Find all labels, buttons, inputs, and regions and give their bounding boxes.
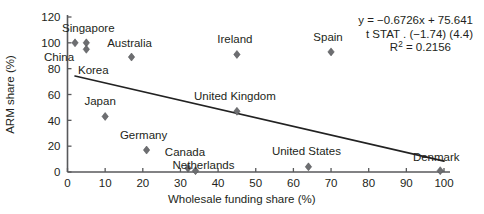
x-tick-label: 30 — [174, 177, 187, 189]
data-point-label: Australia — [107, 37, 152, 49]
data-point-label: Denmark — [413, 151, 460, 163]
regression-annotation: y = −0.6726x + 75.641t STAT . (−1.74) (4… — [358, 14, 473, 53]
x-tick-label: 90 — [400, 177, 413, 189]
r-squared: R2 = 0.2156 — [390, 40, 451, 54]
data-points — [72, 39, 444, 175]
x-tick-label: 80 — [362, 177, 375, 189]
data-point-label: Germany — [120, 129, 168, 141]
x-axis-title: Wholesale funding share (%) — [168, 193, 316, 205]
plot-area: 0102030405060708090100 020406080100120 C… — [0, 0, 484, 214]
x-tick-label: 100 — [434, 177, 453, 189]
data-point-marker — [128, 53, 134, 61]
data-point-marker — [72, 39, 78, 47]
data-point-marker — [143, 146, 149, 154]
y-tick-label: 60 — [48, 89, 61, 101]
y-tick-label: 40 — [48, 115, 61, 127]
data-point-label: Korea — [78, 64, 109, 76]
data-point-label: Japan — [84, 95, 115, 107]
regression-line — [75, 76, 444, 161]
x-tick-label: 10 — [99, 177, 112, 189]
scatter-chart: 0102030405060708090100 020406080100120 C… — [0, 0, 484, 214]
data-point-marker — [437, 167, 443, 175]
x-tick-label: 20 — [136, 177, 149, 189]
y-tick-labels: 020406080100120 — [41, 11, 60, 178]
x-tick-label: 40 — [212, 177, 225, 189]
data-point-label: Singapore — [62, 22, 114, 34]
data-point-marker — [328, 48, 334, 56]
y-tick-label: 80 — [48, 63, 61, 75]
data-point-marker — [83, 45, 89, 53]
x-tick-label: 70 — [325, 177, 338, 189]
data-point-label: Ireland — [217, 33, 252, 45]
x-tick-label: 0 — [64, 177, 70, 189]
trend-line — [75, 76, 444, 161]
y-tick-label: 20 — [48, 140, 61, 152]
regression-equation: y = −0.6726x + 75.641 — [358, 14, 473, 26]
data-point-label: Spain — [313, 31, 342, 43]
data-point-label: United States — [272, 145, 341, 157]
y-tick-label: 0 — [54, 166, 60, 178]
y-axis-title: ARM share (%) — [4, 55, 16, 134]
x-tick-label: 60 — [287, 177, 300, 189]
data-point-marker — [234, 50, 240, 58]
y-tick-label: 100 — [41, 37, 60, 49]
data-point-label: Canada — [165, 146, 206, 158]
y-tick-label: 120 — [41, 11, 60, 23]
x-tick-labels: 0102030405060708090100 — [64, 177, 453, 189]
data-point-marker — [305, 163, 311, 171]
x-tick-label: 50 — [249, 177, 262, 189]
data-point-label: Netherlands — [173, 159, 235, 171]
data-point-marker — [102, 112, 108, 120]
t-statistic: t STAT . (−1.74) (4.4) — [366, 28, 473, 40]
data-point-label: United Kingdom — [194, 90, 276, 102]
data-point-label: China — [44, 51, 75, 63]
